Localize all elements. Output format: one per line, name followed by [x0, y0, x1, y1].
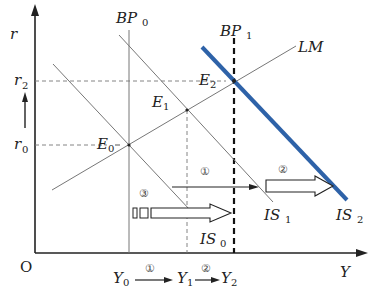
svg-text:2: 2	[210, 79, 216, 90]
e2-point	[232, 79, 236, 83]
step1-arrow	[172, 184, 259, 190]
svg-text:r: r	[14, 135, 22, 153]
is1-label: IS 1	[263, 206, 291, 225]
y0-label: Y 0	[113, 269, 129, 288]
step2-hollow-arrow	[266, 176, 333, 196]
y-axis	[31, 4, 39, 253]
svg-text:IS: IS	[263, 206, 280, 224]
svg-text:1: 1	[246, 30, 252, 41]
step2-marker: ②	[278, 163, 288, 176]
e1-point	[185, 108, 188, 111]
svg-text:E: E	[198, 71, 210, 89]
step1-marker: ①	[200, 165, 210, 178]
is1-curve	[119, 35, 273, 202]
svg-text:IS: IS	[199, 230, 216, 248]
y1-to-y2-arrow	[195, 277, 220, 283]
svg-text:0: 0	[108, 143, 114, 154]
svg-text:IS: IS	[335, 206, 352, 224]
bp1-label: BP 1	[219, 22, 252, 41]
origin-label: O	[20, 258, 32, 276]
svg-text:LM: LM	[297, 38, 324, 56]
r0-label: r 0	[14, 135, 28, 155]
svg-text:2: 2	[357, 214, 363, 225]
svg-text:E: E	[151, 93, 163, 111]
svg-text:1: 1	[285, 214, 291, 225]
lm-label: LM	[297, 38, 324, 56]
x-axis-label: Y	[340, 263, 352, 281]
e2-label: E 2	[198, 71, 216, 90]
svg-text:0: 0	[123, 277, 129, 288]
e1-label: E 1	[151, 93, 169, 112]
r-increase-arrow	[22, 92, 28, 128]
svg-text:2: 2	[22, 80, 28, 91]
bp0-label: BP 0	[115, 9, 148, 28]
svg-text:0: 0	[220, 238, 226, 249]
e0-label: E 0	[96, 135, 120, 154]
svg-text:r: r	[14, 71, 22, 89]
is2-label: IS 2	[335, 206, 363, 225]
step3-hollow-arrow	[133, 204, 231, 222]
is0-label: IS 0	[199, 230, 226, 249]
svg-text:BP: BP	[115, 9, 138, 27]
svg-text:2: 2	[231, 277, 237, 288]
is-lm-bp-diagram: r Y O r 2 r 0 BP 0 BP 1 LM E 0 E 1 E 2 I…	[0, 0, 380, 305]
step3-marker: ③	[139, 187, 149, 200]
lm-curve	[52, 46, 296, 190]
y0-to-y1-arrow	[135, 277, 173, 283]
y2-label: Y 2	[221, 269, 237, 288]
svg-text:1: 1	[163, 101, 169, 112]
svg-text:0: 0	[142, 17, 148, 28]
bottom-step1-marker: ①	[145, 262, 155, 275]
is0-curve	[53, 64, 190, 210]
svg-text:1: 1	[187, 277, 193, 288]
r2-label: r 2	[14, 71, 28, 91]
svg-text:E: E	[96, 135, 108, 153]
svg-text:BP: BP	[219, 22, 242, 40]
x-axis	[35, 249, 368, 257]
y1-label: Y 1	[177, 269, 193, 288]
bottom-step2-marker: ②	[201, 262, 211, 275]
e0-point	[127, 143, 130, 146]
svg-text:0: 0	[22, 144, 28, 155]
is2-curve	[202, 47, 347, 200]
y-axis-label: r	[10, 25, 18, 43]
